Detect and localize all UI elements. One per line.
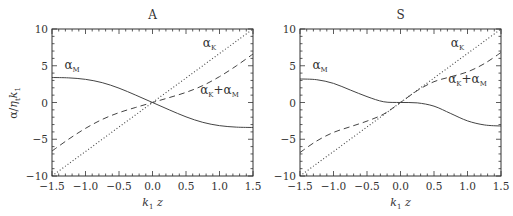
y-tick-label: 5 xyxy=(289,60,296,72)
x-tick-label: 1.5 xyxy=(493,180,510,192)
panel-s: S−1.5−1.0−0.50.00.51.01.5−10−50510k1 zαK… xyxy=(274,8,510,211)
x-tick-label: 0.5 xyxy=(426,180,443,192)
curve-annotation: αK+αM xyxy=(448,72,487,88)
x-tick-label: −0.5 xyxy=(106,180,132,192)
x-tick-label: −1.0 xyxy=(73,180,99,192)
x-tick-label: 1.0 xyxy=(211,180,228,192)
x-tick-label: −1.0 xyxy=(321,180,347,192)
figure: α/ηtk1 A−1.5−1.0−0.50.00.51.01.5−10−5051… xyxy=(0,0,513,216)
x-axis-label: k1 z xyxy=(142,196,163,211)
y-tick-label: −5 xyxy=(33,133,48,145)
y-tick-label: 10 xyxy=(35,23,48,35)
y-tick-label: −10 xyxy=(274,170,296,182)
x-tick-label: 1.5 xyxy=(245,180,262,192)
y-axis-label: α/ηtk1 xyxy=(7,87,22,119)
curve-annotation: αK+αM xyxy=(200,83,239,99)
panel-a: A−1.5−1.0−0.50.00.51.01.5−10−50510k1 zαK… xyxy=(26,8,262,211)
y-tick-label: 0 xyxy=(41,97,48,109)
series-k-m-line xyxy=(300,53,501,153)
y-tick-label: −10 xyxy=(26,170,48,182)
series-k-m-line xyxy=(52,54,253,151)
x-tick-label: 0.0 xyxy=(144,180,161,192)
curve-annotation: αK xyxy=(451,36,465,52)
y-tick-label: 10 xyxy=(283,23,296,35)
panel-title: A xyxy=(147,8,157,22)
y-tick-label: −5 xyxy=(281,133,296,145)
curve-annotation: αM xyxy=(312,58,327,74)
x-tick-label: 0.5 xyxy=(178,180,195,192)
x-tick-label: 1.0 xyxy=(459,180,476,192)
y-tick-label: 5 xyxy=(41,60,48,72)
curve-annotation: αM xyxy=(64,58,79,74)
x-tick-label: 0.0 xyxy=(392,180,409,192)
y-tick-label: 0 xyxy=(289,97,296,109)
x-axis-label: k1 z xyxy=(390,196,411,211)
panel-title: S xyxy=(396,8,404,22)
curve-annotation: αK xyxy=(203,36,217,52)
x-tick-label: −0.5 xyxy=(354,180,380,192)
